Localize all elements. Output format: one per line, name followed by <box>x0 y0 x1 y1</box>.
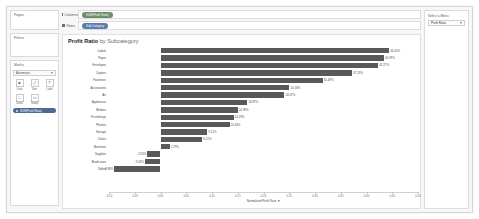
size-icon: ⤢ <box>31 79 39 87</box>
bar-row[interactable]: Furnishings14.19% <box>63 114 418 121</box>
marks-button-tooltip-label: Tooltip <box>31 102 39 105</box>
bar[interactable] <box>161 100 248 105</box>
bar-row[interactable]: Supplies-2.55% <box>63 150 418 157</box>
bar[interactable] <box>161 70 353 75</box>
bar-rows: Labels44.42%Paper43.39%Envelopes42.27%Co… <box>63 47 418 192</box>
bar-row[interactable]: Accessories25.03% <box>63 84 418 91</box>
bar-row[interactable]: Labels44.42% <box>63 47 418 54</box>
bar-row-track: 14.99% <box>109 106 418 113</box>
marks-card-pill[interactable]: SUM(Profit Ratio) <box>13 108 56 113</box>
x-axis-tick-label: 0.15 <box>235 194 240 198</box>
bar-value-label: 25.03% <box>290 86 300 90</box>
bar-row-label: Fasteners <box>63 78 109 82</box>
bar[interactable] <box>161 92 285 97</box>
filters-card-dropzone[interactable] <box>11 41 58 55</box>
bar[interactable] <box>161 85 290 90</box>
bar-row-track: 14.19% <box>109 114 418 121</box>
bar[interactable] <box>114 166 160 171</box>
marks-card[interactable]: Marks Automatic ■ Color ⤢ Size T Label <box>10 60 59 206</box>
x-axis-tick-label: 0.25 <box>287 194 292 198</box>
bar-row[interactable]: Copiers37.23% <box>63 69 418 76</box>
rows-icon <box>62 24 65 27</box>
columns-shelf-well[interactable]: SUM(Profit Ratio) <box>78 10 421 19</box>
marks-buttons-grid: ■ Color ⤢ Size T Label ∴ Detail ▭ Tool <box>12 78 57 106</box>
bar-row[interactable]: Art24.07% <box>63 91 418 98</box>
bar-row[interactable]: Bookcases-3.02% <box>63 158 418 165</box>
pages-card-dropzone[interactable] <box>11 18 58 32</box>
bar-value-label: 42.27% <box>379 63 389 67</box>
viz-title-rest: by Subcategory <box>98 38 138 44</box>
bar-row-label: Labels <box>63 49 109 53</box>
bar[interactable] <box>161 63 379 68</box>
marks-button-color[interactable]: ■ Color <box>12 78 27 92</box>
marks-button-tooltip[interactable]: ▭ Tooltip <box>27 93 42 107</box>
rows-pill[interactable]: Sub-Category <box>82 23 108 29</box>
bar-value-label: 31.49% <box>324 78 334 82</box>
rows-shelf[interactable]: Rows Sub-Category <box>62 21 421 30</box>
bar-value-label: -2.55% <box>137 152 146 156</box>
pages-card[interactable]: Pages <box>10 10 59 30</box>
bar-row[interactable]: Envelopes42.27% <box>63 62 418 69</box>
x-axis-tick-label: 0.50 <box>415 194 420 198</box>
bar-row-track: 44.42% <box>109 47 418 54</box>
bar-row[interactable]: Storage9.12% <box>63 128 418 135</box>
sort-descending-icon[interactable]: ▼ <box>277 199 280 203</box>
bar[interactable] <box>161 78 323 83</box>
metric-filter-value: Profit Ratio <box>431 21 446 25</box>
bar-row-label: Art <box>63 93 109 97</box>
bar-row-track: 37.23% <box>109 69 418 76</box>
bar-value-label: 14.99% <box>239 108 249 112</box>
bar-row[interactable]: Paper43.39% <box>63 54 418 61</box>
bar-row[interactable]: Machines1.79% <box>63 143 418 150</box>
marks-type-dropdown[interactable]: Automatic <box>13 70 56 76</box>
columns-shelf[interactable]: Columns SUM(Profit Ratio) <box>62 10 421 19</box>
columns-pill-label: SUM(Profit Ratio) <box>86 13 109 17</box>
filters-card-title: Filters <box>11 34 58 41</box>
bar[interactable] <box>161 129 208 134</box>
bar-row-track: -2.55% <box>109 150 418 157</box>
bar[interactable] <box>161 144 170 149</box>
marks-button-size[interactable]: ⤢ Size <box>27 78 42 92</box>
filters-card[interactable]: Filters <box>10 33 59 57</box>
columns-pill[interactable]: SUM(Profit Ratio) <box>82 12 113 18</box>
bar-row-label: Chairs <box>63 137 109 141</box>
bar-row[interactable]: Appliances16.87% <box>63 99 418 106</box>
rows-shelf-well[interactable]: Sub-Category <box>78 21 421 30</box>
marks-type-value: Automatic <box>16 71 30 75</box>
bar[interactable] <box>161 107 238 112</box>
bar-row[interactable]: Tables-8.98% <box>63 165 418 172</box>
bar[interactable] <box>161 122 230 127</box>
rows-pill-label: Sub-Category <box>86 24 104 28</box>
bar[interactable] <box>161 55 384 60</box>
bar[interactable] <box>145 159 161 164</box>
bar-row-track: 13.40% <box>109 121 418 128</box>
bar-chart-plot: Labels44.42%Paper43.39%Envelopes42.27%Co… <box>63 47 418 208</box>
bar-row[interactable]: Binders14.99% <box>63 106 418 113</box>
bar-row[interactable]: Chairs8.12% <box>63 136 418 143</box>
marks-button-label[interactable]: T Label <box>42 78 57 92</box>
chevron-down-icon <box>51 72 53 74</box>
bar-row-track: -8.98% <box>109 165 418 172</box>
x-axis-tick-label: 0.05 <box>184 194 189 198</box>
bar-row[interactable]: Phones13.40% <box>63 121 418 128</box>
bar-row-label: Supplies <box>63 152 109 156</box>
bar-row[interactable]: Fasteners31.49% <box>63 77 418 84</box>
bar-row-track: -3.02% <box>109 158 418 165</box>
bar-value-label: 1.79% <box>171 145 179 149</box>
bar[interactable] <box>161 115 234 120</box>
bar[interactable] <box>147 151 160 156</box>
marks-card-title: Marks <box>11 61 58 68</box>
bar[interactable] <box>161 48 390 53</box>
bar-row-track: 25.03% <box>109 84 418 91</box>
marks-button-detail[interactable]: ∴ Detail <box>12 93 27 107</box>
bar-value-label: -8.98% <box>104 167 113 171</box>
bar-row-label: Machines <box>63 145 109 149</box>
metric-filter-dropdown[interactable]: Profit Ratio <box>428 20 465 26</box>
bar-value-label: 37.23% <box>353 71 363 75</box>
bar[interactable] <box>161 137 203 142</box>
x-axis-tick-label: 0.45 <box>390 194 395 198</box>
marks-button-size-label: Size <box>32 88 37 91</box>
bar-row-label: Binders <box>63 108 109 112</box>
marks-button-label-label: Label <box>46 88 52 91</box>
bar-value-label: 8.12% <box>203 137 211 141</box>
